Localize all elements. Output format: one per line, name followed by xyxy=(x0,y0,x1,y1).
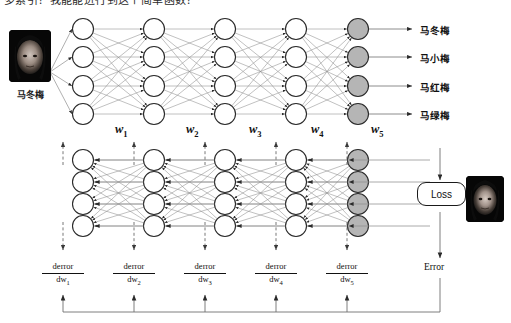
hidden-node xyxy=(144,104,165,125)
hidden-node xyxy=(286,76,307,97)
weight-subscript: 1 xyxy=(123,129,127,139)
gradient-numerator: derror xyxy=(111,262,157,272)
weight-label-1: w2 xyxy=(186,122,199,139)
output-label-0: 马冬梅 xyxy=(420,23,450,37)
hidden-node xyxy=(215,47,236,68)
hidden-node xyxy=(215,104,236,125)
loss-box: Loss xyxy=(417,182,466,206)
backward-hidden-node xyxy=(286,216,307,237)
hidden-node xyxy=(144,19,165,40)
gradient-denominator: dw5 xyxy=(324,275,370,286)
backward-hidden-node xyxy=(286,172,307,193)
weight-subscript: 3 xyxy=(257,129,261,139)
gradient-fraction-2: derror dw3 xyxy=(182,262,228,285)
hidden-node xyxy=(73,76,94,97)
backward-hidden-node xyxy=(144,150,165,171)
output-node xyxy=(348,104,369,125)
backward-hidden-node xyxy=(215,150,236,171)
output-label-1: 马小梅 xyxy=(420,51,450,65)
weight-label-3: w4 xyxy=(311,122,324,139)
error-label: Error xyxy=(424,262,444,272)
weight-subscript: 2 xyxy=(194,129,198,139)
gradient-denominator: dw2 xyxy=(111,275,157,286)
hidden-node xyxy=(144,76,165,97)
gradient-fraction-1: derror dw2 xyxy=(111,262,157,285)
backward-hidden-node xyxy=(286,194,307,215)
hidden-node xyxy=(286,47,307,68)
weight-subscript: 4 xyxy=(319,129,323,139)
gradient-numerator: derror xyxy=(324,262,370,272)
output-node xyxy=(348,47,369,68)
hidden-node xyxy=(144,47,165,68)
target-face-photo xyxy=(466,176,504,222)
backward-hidden-node xyxy=(286,150,307,171)
weight-label-4: w5 xyxy=(371,122,384,139)
backward-hidden-node xyxy=(73,150,94,171)
hidden-node xyxy=(215,76,236,97)
weight-subscript: 5 xyxy=(379,129,383,139)
gradient-denominator: dw1 xyxy=(40,275,86,286)
output-node xyxy=(348,19,369,40)
backward-hidden-node xyxy=(215,172,236,193)
backward-hidden-node xyxy=(144,172,165,193)
weight-label-0: w1 xyxy=(115,122,128,139)
gradient-denominator: dw3 xyxy=(182,275,228,286)
hidden-node xyxy=(215,19,236,40)
hidden-node xyxy=(73,47,94,68)
input-caption: 马冬梅 xyxy=(9,88,51,101)
backward-hidden-node xyxy=(215,216,236,237)
output-node xyxy=(348,76,369,97)
gradient-fraction-0: derror dw1 xyxy=(40,262,86,285)
output-label-3: 马绿梅 xyxy=(420,108,450,122)
gradient-denominator: dw4 xyxy=(253,275,299,286)
backward-hidden-node xyxy=(73,172,94,193)
output-label-2: 马红梅 xyxy=(420,80,450,94)
gradient-fraction-4: derror dw5 xyxy=(324,262,370,285)
hidden-node xyxy=(73,104,94,125)
gradient-numerator: derror xyxy=(40,262,86,272)
backward-hidden-node xyxy=(73,194,94,215)
backward-hidden-node xyxy=(215,194,236,215)
hidden-node xyxy=(286,19,307,40)
input-face-photo xyxy=(9,30,51,82)
gradient-numerator: derror xyxy=(182,262,228,272)
backward-hidden-node xyxy=(144,194,165,215)
weight-label-2: w3 xyxy=(249,122,262,139)
hidden-node xyxy=(73,19,94,40)
diagram-canvas: 多索引？我能能进行到这个简单函数？ xyxy=(0,0,511,323)
backward-hidden-node xyxy=(144,216,165,237)
backward-hidden-node xyxy=(73,216,94,237)
gradient-fraction-3: derror dw4 xyxy=(253,262,299,285)
gradient-numerator: derror xyxy=(253,262,299,272)
hidden-node xyxy=(286,104,307,125)
